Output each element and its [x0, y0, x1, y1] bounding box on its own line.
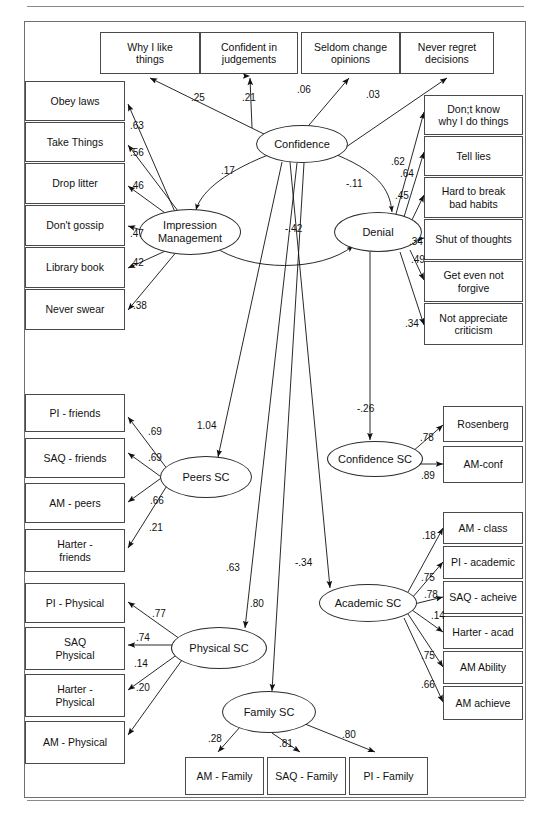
- coefficient-conf-to-family-sc: .80: [250, 598, 264, 609]
- coefficient-conf-to-peers-sc: 1.04: [197, 420, 216, 431]
- latent-ellipse-physical-sc: Physical SC: [171, 627, 267, 669]
- observed-box-am-achieve: AM achieve: [443, 686, 523, 720]
- coefficient-phys-to-harter-physical: .14: [134, 658, 148, 669]
- observed-box-hard-to-break-bad-habits: Hard to breakbad habits: [424, 177, 523, 218]
- coefficient-denial-to-hard-to-break: .45: [395, 190, 409, 201]
- coefficient-conf-to-why-i-like-things: .25: [191, 92, 205, 103]
- coefficient-denial-to-not-appreciate: .34: [405, 318, 419, 329]
- coefficient-peers-to-am-peers: .66: [150, 495, 164, 506]
- coefficient-im-to-take-things: .56: [130, 147, 144, 158]
- observed-box-am-ability: AM Ability: [443, 651, 523, 684]
- observed-box-seldom-change-opinions: Seldom changeopinions: [301, 32, 400, 74]
- coefficient-im-to-library-book: .42: [130, 257, 144, 268]
- coefficient-phys-to-am-physical: .20: [136, 682, 150, 693]
- observed-box-rosenberg: Rosenberg: [443, 406, 523, 442]
- observed-box-never-swear: Never swear: [25, 289, 125, 330]
- coefficient-peers-to-saq-friends: .69: [148, 452, 162, 463]
- observed-box-not-appreciate-criticism: Not appreciatecriticism: [424, 303, 523, 345]
- coefficient-peers-to-pi-friends: .69: [148, 426, 162, 437]
- observed-box-harter-acad: Harter - acad: [443, 616, 523, 649]
- coefficient-phys-to-saq-physical: .74: [136, 632, 150, 643]
- observed-box-saq-physical: SAQPhysical: [25, 627, 125, 670]
- coefficient-acad-to-pi-academic: .75: [421, 572, 435, 583]
- observed-box-drop-litter: Drop litter: [25, 163, 125, 204]
- observed-box-am-peers: AM - peers: [25, 483, 125, 523]
- coefficient-denial-to-confidence-sc: -.26: [357, 403, 374, 414]
- coefficient-denial-to-shut-of-thoughts: .34: [409, 236, 423, 247]
- observed-box-take-things: Take Things: [25, 122, 125, 162]
- edge-peers-harter-friends: [128, 484, 168, 548]
- observed-box-am-family: AM - Family: [185, 757, 264, 795]
- edge-conf-judgements-vert: [250, 78, 252, 128]
- coefficient-peers-to-harter-friends: .21: [149, 522, 163, 533]
- coefficient-conf-to-confident-in-judgements: .21: [242, 92, 256, 103]
- edge-phys-am-physical: [128, 660, 182, 735]
- coefficient-family-to-saq-family: .81: [279, 738, 293, 749]
- latent-ellipse-academic-sc: Academic SC: [319, 584, 417, 622]
- observed-box-library-book: Library book: [25, 247, 125, 288]
- latent-ellipse-confidence: Confidence: [256, 125, 348, 163]
- edge-conf-peers-sc: [218, 162, 282, 457]
- observed-box-never-regret-decisions: Never regretdecisions: [400, 32, 494, 74]
- coefficient-family-to-pi-family: .80: [342, 729, 356, 740]
- latent-ellipse-impression-management: ImpressionManagement: [139, 209, 241, 255]
- coefficient-acad-to-am-ability: .75: [421, 650, 435, 661]
- coefficient-confsc-to-am-conf: .89: [421, 470, 435, 481]
- observed-box-pi-friends: PI - friends: [25, 394, 125, 432]
- observed-box-tell-lies: Tell lies: [424, 136, 523, 176]
- observed-box-am-conf: AM-conf: [443, 446, 523, 483]
- coefficient-im-to-obey-laws: .63: [130, 120, 144, 131]
- latent-ellipse-family-sc: Family SC: [222, 691, 316, 733]
- observed-box-saq-friends: SAQ - friends: [25, 438, 125, 478]
- observed-box-get-even-not-forgive: Get even notforgive: [424, 261, 523, 302]
- observed-box-pi-family: PI - Family: [349, 757, 428, 795]
- coefficient-confsc-to-rosenberg: .78: [420, 432, 434, 443]
- latent-ellipse-confidence-sc: Confidence SC: [327, 441, 423, 477]
- observed-box-obey-laws: Obey laws: [25, 81, 125, 121]
- observed-box-why-i-like-things: Why I likethings: [100, 32, 200, 74]
- coefficient-conf-to-never-regret-decisions: .03: [366, 89, 380, 100]
- observed-box-pi-academic: PI - academic: [443, 546, 523, 579]
- coefficient-denial-to-dont-know: .62: [391, 156, 405, 167]
- coefficient-denial-to-tell-lies: .64: [400, 168, 414, 179]
- observed-box-saq-family: SAQ - Family: [267, 757, 346, 795]
- coefficient-im-to-dont-gossip: .47: [130, 228, 144, 239]
- edge-family-pi-family: [300, 722, 375, 752]
- edge-den-tell-lies: [404, 152, 424, 217]
- observed-box-harter-friends: Harter -friends: [25, 529, 125, 572]
- coefficient-acad-to-am-class: .18: [422, 530, 436, 541]
- coefficient-conf-to-academic-sc: -.34: [295, 557, 312, 568]
- coefficient-conf-to-physical-sc: .63: [226, 562, 240, 573]
- coefficient-conf-with-im: .17: [221, 165, 235, 176]
- cov-cov-confidence-impression: [196, 155, 268, 210]
- observed-box-dont-gossip: Don't gossip: [25, 205, 125, 246]
- observed-box-shut-of-thoughts: Shut of thoughts: [424, 219, 523, 260]
- observed-box-pi-physical: PI - Physical: [25, 583, 125, 623]
- coefficient-im-with-denial: -.42: [285, 223, 302, 234]
- observed-box-saq-acheive: SAQ - acheive: [443, 581, 523, 614]
- coefficient-denial-to-get-even: .49: [411, 254, 425, 265]
- coefficient-acad-to-am-achieve: .66: [421, 679, 435, 690]
- coefficient-family-to-am-family: .28: [208, 733, 222, 744]
- observed-box-confident-in-judgements: Confident injudgements: [200, 32, 298, 74]
- coefficient-acad-to-saq-acheive: .78: [424, 589, 438, 600]
- coefficient-phys-to-pi-physical: .77: [152, 608, 166, 619]
- coefficient-im-to-never-swear: .38: [133, 300, 147, 311]
- sem-diagram-stage: Why I likethingsConfident injudgementsSe…: [0, 0, 550, 823]
- coefficient-conf-to-seldom-change-opinions: .06: [297, 84, 311, 95]
- observed-box-dont-know-why-i-do-things: Don;t knowwhy I do things: [424, 95, 523, 135]
- observed-box-am-class: AM - class: [443, 512, 523, 544]
- observed-box-am-physical: AM - Physical: [25, 721, 125, 764]
- observed-box-harter-physical: Harter -Physical: [25, 674, 125, 717]
- coefficient-im-to-drop-litter: .46: [130, 180, 144, 191]
- coefficient-conf-with-denial: -.11: [346, 178, 363, 189]
- cov-cov-impression-denial: [213, 246, 353, 266]
- coefficient-acad-to-harter-acad: .14: [431, 610, 445, 621]
- latent-ellipse-peers-sc: Peers SC: [160, 456, 252, 498]
